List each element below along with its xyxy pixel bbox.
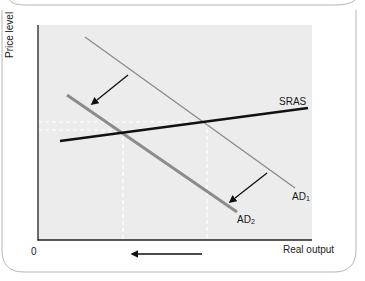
top-panel-border [10, 0, 355, 5]
ad2-label-main: AD [237, 214, 251, 225]
plot-area [38, 25, 312, 240]
ad1-label-main: AD [292, 191, 306, 202]
diagram-canvas [0, 0, 365, 281]
ad2-label: AD2 [237, 214, 255, 225]
ad1-label: AD1 [292, 191, 310, 202]
origin-label: 0 [31, 246, 37, 257]
ad2-label-sub: 2 [251, 218, 255, 225]
ad1-label-sub: 1 [306, 195, 310, 202]
sras-label: SRAS [279, 96, 306, 107]
x-axis-label: Real output [283, 244, 334, 255]
y-axis-label: Price level [4, 12, 15, 58]
